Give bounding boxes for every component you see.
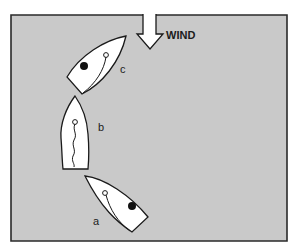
- boat-b-label: b: [98, 121, 104, 133]
- wind-label: WIND: [166, 29, 195, 41]
- crew-dot-icon: [80, 62, 88, 70]
- sailing-diagram: WIND c b a: [0, 0, 296, 248]
- boat-c-label: c: [120, 63, 126, 75]
- water-area: [11, 15, 287, 241]
- crew-dot-icon: [128, 202, 136, 210]
- boat-a-label: a: [93, 215, 100, 227]
